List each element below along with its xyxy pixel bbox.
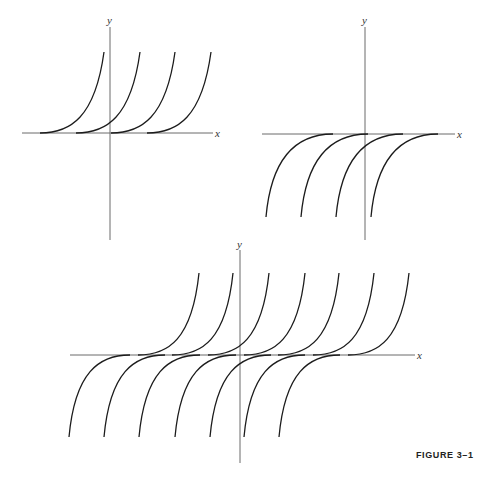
figure-caption: FIGURE 3–1 bbox=[416, 450, 474, 460]
upper-curve bbox=[313, 273, 374, 355]
figure-canvas: y x y x y x bbox=[0, 0, 478, 483]
lower-curve bbox=[104, 355, 165, 437]
y-axis-label: y bbox=[106, 14, 112, 26]
panel-top-right: y x bbox=[262, 14, 462, 240]
panel-top-left: y x bbox=[22, 14, 220, 240]
upper-curve bbox=[208, 273, 269, 355]
curve bbox=[266, 134, 333, 217]
upper-curve bbox=[348, 273, 409, 355]
curve bbox=[301, 134, 368, 217]
lower-curve bbox=[244, 355, 305, 437]
lower-curve bbox=[139, 355, 200, 437]
upper-curve bbox=[138, 273, 199, 355]
x-axis-label: x bbox=[214, 127, 220, 139]
upper-curve bbox=[172, 273, 233, 355]
curve bbox=[40, 52, 104, 133]
y-axis-label: y bbox=[236, 238, 242, 250]
upper-curve bbox=[278, 273, 339, 355]
curve bbox=[147, 52, 211, 133]
lower-curve bbox=[69, 355, 130, 437]
curve bbox=[371, 134, 438, 217]
upper-curve bbox=[244, 273, 305, 355]
x-axis-label: x bbox=[456, 128, 462, 140]
lower-curve bbox=[175, 355, 236, 437]
curve bbox=[111, 52, 175, 133]
y-axis-label: y bbox=[361, 14, 367, 26]
curve bbox=[76, 52, 140, 133]
x-axis-label: x bbox=[416, 349, 422, 361]
panel-bottom: y x bbox=[69, 238, 422, 463]
curve bbox=[336, 134, 403, 217]
lower-curve bbox=[279, 355, 340, 437]
